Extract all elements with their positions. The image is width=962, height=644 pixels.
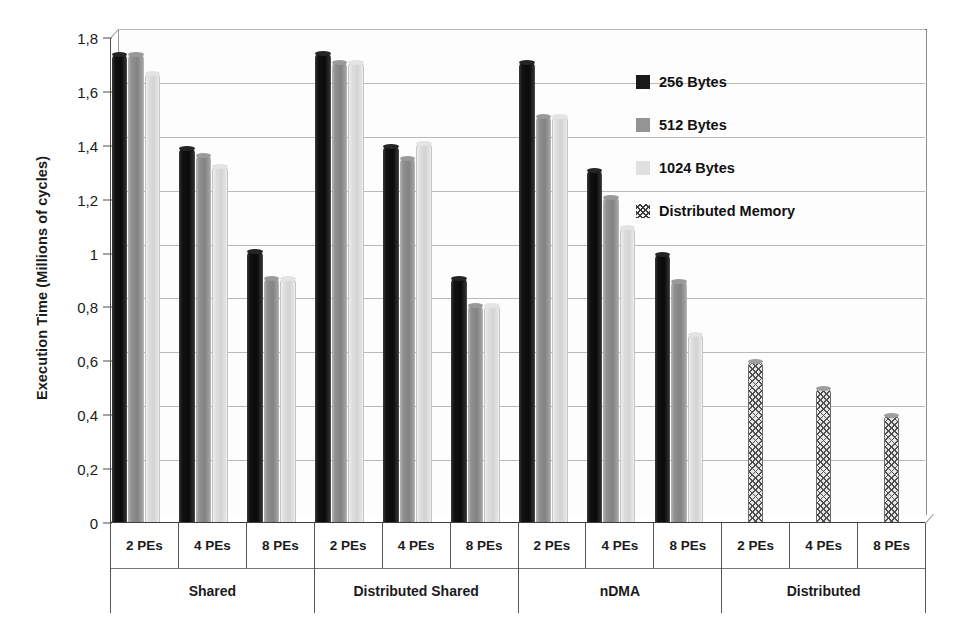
- bar-top-cap: [671, 279, 687, 284]
- category-tick-cell: 8 PEs: [450, 523, 518, 568]
- bar: [620, 227, 636, 523]
- bar: [655, 254, 671, 523]
- y-axis-tick-label: 0,2: [46, 461, 98, 478]
- bar-face: [655, 254, 671, 523]
- bar-face: [536, 116, 552, 523]
- category-tick-cell: 8 PEs: [246, 523, 314, 568]
- legend-item[interactable]: 1024 Bytes: [636, 146, 876, 189]
- category-label: 4 PEs: [194, 538, 231, 553]
- bar: [179, 148, 195, 523]
- bar-face: [884, 415, 899, 523]
- bar-face: [264, 278, 280, 523]
- category-label: 2 PEs: [534, 538, 571, 553]
- y-axis-tick-labels: 00,20,40,60,811,21,41,61,8: [44, 0, 98, 644]
- bar-top-cap: [400, 156, 416, 161]
- bar-face: [688, 334, 704, 523]
- category-tick-cell: 4 PEs: [382, 523, 450, 568]
- bar-top-cap: [655, 252, 671, 257]
- category-label: 2 PEs: [126, 538, 163, 553]
- bar-face: [112, 54, 128, 523]
- bar-top-cap: [264, 276, 280, 281]
- y-axis-tick-label: 0: [46, 515, 98, 532]
- bar-face: [748, 361, 763, 523]
- bar: [519, 62, 535, 523]
- grid-line: [118, 29, 925, 30]
- legend-swatch-icon: [636, 75, 650, 89]
- bar-top-cap: [128, 52, 144, 57]
- bar: [196, 155, 212, 523]
- bar: [468, 305, 484, 523]
- legend-item[interactable]: 512 Bytes: [636, 103, 876, 146]
- bar: [400, 158, 416, 523]
- bar-face: [332, 62, 348, 523]
- bar-top-cap: [552, 114, 568, 119]
- y-axis-tick-label: 0,8: [46, 299, 98, 316]
- bar: [748, 361, 763, 523]
- group-label: Distributed Shared: [354, 583, 479, 599]
- bar: [536, 116, 552, 523]
- legend-swatch-icon: [636, 118, 650, 132]
- bar: [603, 197, 619, 523]
- category-label: 8 PEs: [669, 538, 706, 553]
- bar-top-cap: [280, 276, 296, 281]
- bar-face: [671, 281, 687, 524]
- bar-face: [620, 227, 636, 523]
- group-cell: Shared: [110, 568, 314, 613]
- bar: [383, 146, 399, 523]
- category-axis: 2 PEs4 PEs8 PEs2 PEs4 PEs8 PEs2 PEs4 PEs…: [110, 523, 925, 613]
- legend-label: 512 Bytes: [659, 117, 727, 133]
- bar-face: [348, 62, 364, 523]
- bar-top-cap: [484, 303, 500, 308]
- bar-face: [468, 305, 484, 523]
- group-cell: Distributed Shared: [314, 568, 518, 613]
- bar-top-cap: [145, 71, 161, 76]
- category-tick-cell: 4 PEs: [178, 523, 246, 568]
- legend-item[interactable]: Distributed Memory: [636, 189, 876, 232]
- bar-face: [603, 197, 619, 523]
- bar-face: [416, 143, 432, 523]
- category-label: 4 PEs: [805, 538, 842, 553]
- category-tick-cell: 2 PEs: [314, 523, 382, 568]
- bar: [348, 62, 364, 523]
- bar-face: [400, 158, 416, 523]
- bar-face: [280, 278, 296, 523]
- category-tick-cell: 2 PEs: [518, 523, 586, 568]
- bar-top-cap: [451, 276, 467, 281]
- bar-face: [451, 278, 467, 523]
- bar: [884, 415, 899, 523]
- bar-top-cap: [416, 141, 432, 146]
- group-label: Shared: [189, 583, 236, 599]
- bar: [587, 170, 603, 523]
- y-axis-tick-label: 1,4: [46, 137, 98, 154]
- category-label: 2 PEs: [737, 538, 774, 553]
- category-tick-cell: 4 PEs: [789, 523, 857, 568]
- bar-face: [383, 146, 399, 523]
- bar: [128, 54, 144, 523]
- category-label: 8 PEs: [262, 538, 299, 553]
- category-label: 8 PEs: [873, 538, 910, 553]
- bar: [315, 53, 331, 523]
- group-label: Distributed: [787, 583, 861, 599]
- legend-item[interactable]: 256 Bytes: [636, 60, 876, 103]
- bar-face: [816, 388, 831, 523]
- bar: [247, 251, 263, 523]
- y-axis-tick-label: 1,2: [46, 191, 98, 208]
- bar-top-cap: [383, 144, 399, 149]
- bar-face: [247, 251, 263, 523]
- y-axis-tick-label: 1,6: [46, 83, 98, 100]
- y-axis-tick-label: 1,8: [46, 30, 98, 47]
- plot-depth-edge-bottom-right: [925, 514, 943, 532]
- bar-face: [212, 166, 228, 523]
- bar: [688, 334, 704, 523]
- category-tick-cell: 4 PEs: [585, 523, 653, 568]
- category-label: 4 PEs: [398, 538, 435, 553]
- bar: [552, 116, 568, 523]
- bar: [264, 278, 280, 523]
- category-label: 8 PEs: [466, 538, 503, 553]
- bar: [112, 54, 128, 523]
- category-tick-cell: 2 PEs: [110, 523, 178, 568]
- bar-top-cap: [247, 249, 263, 254]
- chart-figure: Execution Time (Millions of cycles) 00,2…: [0, 0, 962, 644]
- legend-swatch-icon: [636, 161, 650, 175]
- bar-face: [196, 155, 212, 523]
